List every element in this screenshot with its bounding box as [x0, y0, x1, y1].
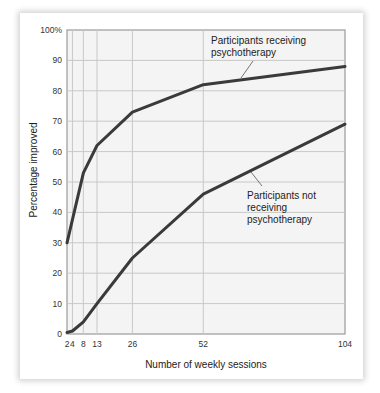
y-tick-label: 100%: [40, 25, 62, 35]
annotation-no-therapy: Participants not: [247, 190, 316, 201]
y-tick-label: 70: [53, 116, 63, 126]
x-tick-label: 8: [81, 339, 86, 349]
x-tick-label: 4: [70, 339, 75, 349]
y-tick-label: 30: [53, 238, 63, 248]
y-tick-label: 80: [53, 86, 63, 96]
x-tick-label: 2: [65, 339, 70, 349]
x-tick-label: 13: [92, 339, 102, 349]
annotation-no-therapy: receiving: [247, 202, 287, 213]
annotation-therapy: psychotherapy: [211, 47, 276, 58]
y-tick-label: 90: [53, 55, 63, 65]
y-tick-label: 40: [53, 207, 63, 217]
x-tick-label: 104: [338, 339, 352, 349]
y-tick-label: 50: [53, 177, 63, 187]
y-axis-label: Percentage improved: [28, 122, 39, 217]
x-axis-label: Number of weekly sessions: [145, 359, 267, 370]
annotation-no-therapy: psychotherapy: [247, 214, 312, 225]
line-chart: 0102030405060708090100%248132652104Numbe…: [0, 0, 380, 393]
y-tick-label: 20: [53, 268, 63, 278]
annotation-therapy: Participants receiving: [211, 35, 306, 46]
y-tick-label: 60: [53, 147, 63, 157]
x-tick-label: 26: [128, 339, 138, 349]
x-tick-label: 52: [199, 339, 209, 349]
y-tick-label: 10: [53, 299, 63, 309]
y-tick-label: 0: [57, 329, 62, 339]
